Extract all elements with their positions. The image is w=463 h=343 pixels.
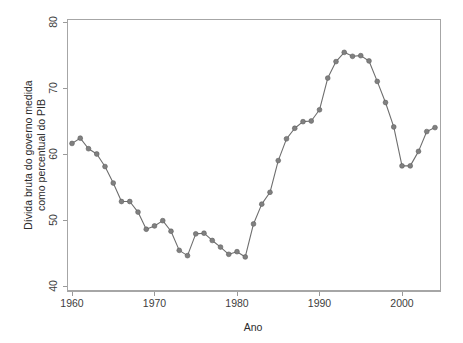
- y-tick-label: 60: [47, 148, 59, 160]
- data-point: [284, 136, 289, 141]
- y-axis-title-line-1: Dívida bruta do governo medida: [22, 80, 34, 230]
- line-chart: 4050607080 19601970198019902000 Ano Dívi…: [0, 0, 463, 343]
- data-point: [136, 210, 141, 215]
- data-point: [202, 231, 207, 236]
- x-tick-label: 1980: [225, 297, 249, 309]
- data-point: [160, 218, 165, 223]
- data-point: [416, 149, 421, 154]
- data-point: [317, 107, 322, 112]
- data-point: [301, 119, 306, 124]
- data-point: [218, 245, 223, 250]
- data-point: [268, 190, 273, 195]
- data-point: [235, 249, 240, 254]
- data-point: [350, 54, 355, 59]
- data-point: [94, 152, 99, 157]
- data-point: [78, 136, 83, 141]
- y-tick-label: 70: [47, 82, 59, 94]
- y-tick-label: 40: [47, 280, 59, 292]
- data-point: [259, 202, 264, 207]
- data-point: [375, 79, 380, 84]
- data-point: [292, 126, 297, 131]
- data-point: [424, 129, 429, 134]
- y-axis-title-line-2: como percentual do PIB: [35, 99, 47, 211]
- data-point: [111, 181, 116, 186]
- data-point: [119, 199, 124, 204]
- data-point: [358, 53, 363, 58]
- x-axis-title: Ano: [244, 321, 263, 333]
- data-point: [276, 158, 281, 163]
- data-point: [391, 125, 396, 130]
- data-point: [367, 59, 372, 64]
- chart-container: 4050607080 19601970198019902000 Ano Dívi…: [0, 0, 463, 343]
- x-tick-label: 1970: [143, 297, 167, 309]
- y-axis-title: Dívida bruta do governo medida como perc…: [22, 80, 47, 230]
- data-point: [226, 252, 231, 257]
- data-point: [210, 238, 215, 243]
- y-tick-label: 50: [47, 214, 59, 226]
- data-point: [86, 146, 91, 151]
- data-point: [342, 50, 347, 55]
- data-point: [169, 229, 174, 234]
- data-point: [383, 100, 388, 105]
- data-point: [400, 163, 405, 168]
- data-point: [144, 227, 149, 232]
- x-tick-label: 1990: [308, 297, 332, 309]
- x-tick-label: 1960: [60, 297, 84, 309]
- data-point: [70, 141, 75, 146]
- data-point: [177, 248, 182, 253]
- data-point: [193, 231, 198, 236]
- data-point: [408, 163, 413, 168]
- data-point: [309, 119, 314, 124]
- data-point: [334, 59, 339, 64]
- data-point: [251, 222, 256, 227]
- data-point: [127, 199, 132, 204]
- data-point: [185, 253, 190, 258]
- data-point: [325, 76, 330, 81]
- data-point: [103, 164, 108, 169]
- data-point: [243, 255, 248, 260]
- data-point: [433, 125, 438, 130]
- x-tick-label: 2000: [390, 297, 414, 309]
- y-tick-label: 80: [47, 16, 59, 28]
- data-point: [152, 224, 157, 229]
